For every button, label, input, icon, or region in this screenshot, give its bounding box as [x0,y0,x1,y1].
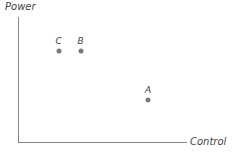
data-point-label-c: C [55,36,61,46]
data-point-a [146,97,151,102]
scatter-chart: Power Control CBA [0,0,233,159]
data-point-b [78,48,83,53]
y-axis-line [18,17,19,143]
data-point-label-a: A [145,85,151,95]
y-axis-label: Power [5,1,36,12]
x-axis-line [18,142,187,143]
x-axis-label: Control [190,136,226,147]
data-point-c [56,48,61,53]
data-point-label-b: B [77,36,83,46]
